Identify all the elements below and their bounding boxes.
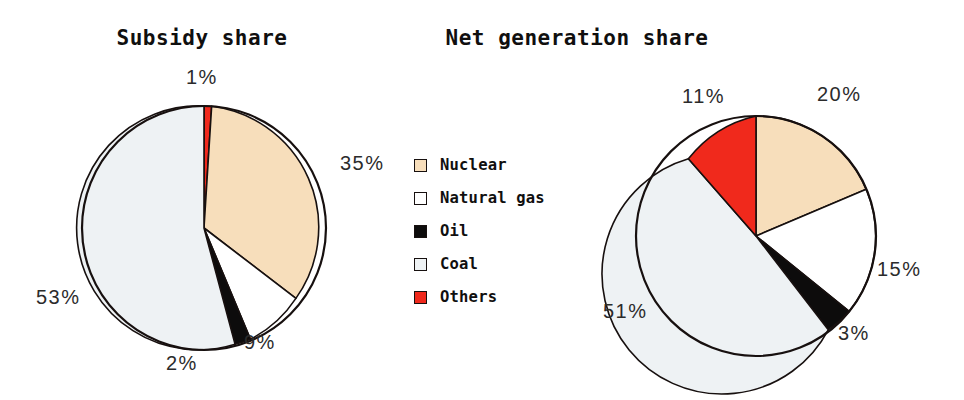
pie-chart-figure: Subsidy share 1% 35% 9% 2% 53% Nuclear N…	[0, 0, 964, 400]
net-generation-share-panel: Net generation share 20% 15% 3% 51% 11%	[570, 0, 964, 400]
pct-label-oil-right: 3%	[838, 322, 870, 345]
subsidy-share-panel: Subsidy share 1% 35% 9% 2% 53%	[0, 0, 420, 400]
net-generation-share-pie	[635, 115, 877, 357]
pct-label-natural-gas-right: 15%	[877, 258, 922, 281]
pie-slices-right	[602, 116, 876, 394]
legend-swatch-others-icon	[414, 291, 427, 304]
legend-swatch-nuclear-icon	[414, 159, 427, 172]
pct-label-others-left: 1%	[186, 66, 218, 89]
pct-label-nuclear-right: 20%	[817, 83, 862, 106]
pct-label-natural-gas-left: 9%	[244, 331, 276, 354]
legend-label-natural-gas: Natural gas	[440, 189, 545, 207]
legend-label-coal: Coal	[440, 255, 478, 273]
legend-label-oil: Oil	[440, 222, 469, 240]
pct-label-others-right: 11%	[682, 85, 725, 108]
legend-label-others: Others	[440, 288, 497, 306]
subsidy-share-pie	[81, 105, 327, 351]
pct-label-oil-left: 2%	[166, 352, 198, 375]
legend: Nuclear Natural gas Oil Coal Others	[414, 150, 574, 315]
legend-swatch-natural-gas-icon	[414, 192, 427, 205]
pct-label-coal-left: 53%	[36, 286, 81, 309]
legend-item-nuclear[interactable]: Nuclear	[414, 150, 574, 180]
legend-item-others[interactable]: Others	[414, 282, 574, 312]
pie-slices-left	[77, 106, 319, 350]
pct-label-nuclear-left: 35%	[340, 152, 385, 175]
legend-swatch-coal-icon	[414, 258, 427, 271]
net-generation-share-title: Net generation share	[380, 26, 774, 50]
legend-item-coal[interactable]: Coal	[414, 249, 574, 279]
legend-swatch-oil-icon	[414, 225, 427, 238]
pct-label-coal-right: 51%	[603, 300, 648, 323]
legend-label-nuclear: Nuclear	[440, 156, 507, 174]
legend-item-natural-gas[interactable]: Natural gas	[414, 183, 574, 213]
subsidy-share-title: Subsidy share	[0, 26, 412, 50]
legend-item-oil[interactable]: Oil	[414, 216, 574, 246]
